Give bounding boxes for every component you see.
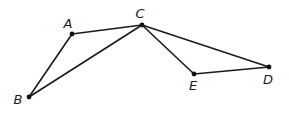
segments: [29, 25, 269, 97]
segment-ed: [194, 67, 269, 74]
segment-bc: [29, 25, 142, 97]
point-label-b: B: [14, 92, 23, 107]
point-label-d: D: [263, 72, 273, 87]
point-c: [140, 23, 145, 28]
segment-ac: [72, 25, 142, 34]
point-b: [27, 95, 32, 100]
segment-cd: [142, 25, 269, 67]
segment-ab: [29, 34, 72, 97]
point-d: [267, 65, 272, 70]
point-label-c: C: [135, 6, 145, 21]
labels: ABCDE: [14, 6, 273, 107]
segment-ce: [142, 25, 194, 74]
point-e: [192, 72, 197, 77]
point-label-e: E: [189, 78, 198, 93]
geometry-diagram: ABCDE: [0, 0, 289, 115]
point-label-a: A: [63, 16, 73, 31]
points: [27, 23, 272, 100]
point-a: [70, 32, 75, 37]
